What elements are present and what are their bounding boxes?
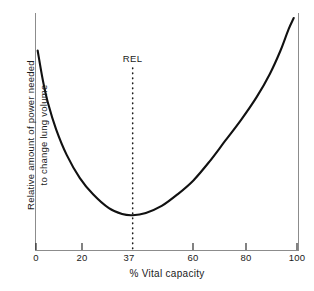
- x-tick-label-60: 60: [178, 252, 208, 264]
- x-axis-title: % Vital capacity: [35, 268, 299, 279]
- x-tick-label-0: 0: [21, 252, 51, 264]
- x-tick-label-37: 37: [114, 252, 144, 264]
- x-tick-label-20: 20: [67, 252, 97, 264]
- power-vs-vital-capacity-curve: [38, 18, 294, 215]
- x-tick-label-100: 100: [282, 252, 312, 264]
- y-axis-title-line-2: to change lung volume: [37, 40, 50, 230]
- chart-figure: 0 20 37 60 80 100 REL % Vital capacity R…: [0, 0, 314, 291]
- x-tick-label-80: 80: [231, 252, 261, 264]
- x-axis-ticks: [36, 243, 297, 250]
- y-axis-title-line-1: Relative amount of power needed: [24, 40, 37, 230]
- y-axis-title: Relative amount of power needed to chang…: [24, 40, 50, 230]
- rel-annotation-label: REL: [113, 53, 153, 64]
